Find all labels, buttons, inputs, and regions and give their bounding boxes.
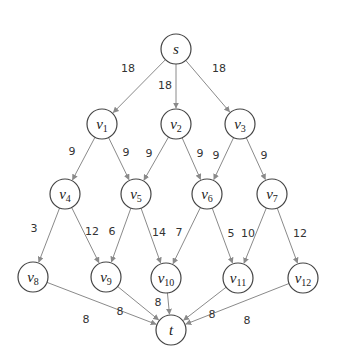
edge-weight-v4-v9: 12 xyxy=(85,225,99,238)
node-v5: v5 xyxy=(121,179,151,209)
edge-weight-v6-v11: 5 xyxy=(228,227,235,240)
edge-weight-v4-v8: 3 xyxy=(31,222,38,235)
edge-weight-v5-v10: 14 xyxy=(152,226,166,239)
edge-weight-v3-v6: 9 xyxy=(213,149,220,162)
flow-network-diagram: 18181899999931261475101288888 sv1v2v3v4v… xyxy=(0,0,339,358)
edge-v9-t xyxy=(118,286,159,319)
edge-v10-t xyxy=(167,293,169,314)
edge-weight-v2-v6: 9 xyxy=(197,147,204,160)
edge-v11-t xyxy=(184,287,227,320)
edge-weight-v2-v5: 9 xyxy=(146,147,153,160)
edge-v4-v8 xyxy=(39,208,60,262)
arrow-icon xyxy=(118,286,159,319)
node-v10: v10 xyxy=(151,263,181,293)
node-v3: v3 xyxy=(225,109,255,139)
arrow-icon xyxy=(72,137,95,180)
edge-weight-v7-v11: 10 xyxy=(241,227,255,240)
edge-weight-v1-v5: 9 xyxy=(123,146,130,159)
edge-weight-v5-v9: 6 xyxy=(109,225,116,238)
edge-weight-v12-t: 8 xyxy=(244,314,251,327)
arrow-icon xyxy=(167,293,169,314)
node-v1: v1 xyxy=(87,109,117,139)
edge-weight-v11-t: 8 xyxy=(209,308,216,321)
node-t: t xyxy=(156,315,186,345)
edge-weight-v9-t: 8 xyxy=(117,305,124,318)
arrow-icon xyxy=(39,208,60,262)
node-v8: v8 xyxy=(18,262,48,292)
edge-v1-v4 xyxy=(72,137,95,180)
node-v7: v7 xyxy=(257,179,287,209)
edge-weight-v10-t: 8 xyxy=(155,296,162,309)
node-v6: v6 xyxy=(192,179,222,209)
edge-weight-v1-v4: 9 xyxy=(69,145,76,158)
edge-weight-v6-v10: 7 xyxy=(176,226,183,239)
edge-weight-v7-v12: 12 xyxy=(293,227,307,240)
edge-weight-v8-t: 8 xyxy=(83,313,90,326)
edge-weight-s-v1: 18 xyxy=(121,62,135,75)
edge-weight-s-v2: 18 xyxy=(158,79,172,92)
node-v12: v12 xyxy=(288,263,318,293)
node-v4: v4 xyxy=(50,179,80,209)
node-v9: v9 xyxy=(91,262,121,292)
node-label: s xyxy=(173,41,179,57)
edge-weight-s-v3: 18 xyxy=(212,62,226,75)
edge-weight-v3-v7: 9 xyxy=(261,149,268,162)
node-v11: v11 xyxy=(223,263,253,293)
node-v2: v2 xyxy=(161,109,191,139)
node-s: s xyxy=(161,34,191,64)
arrow-icon xyxy=(184,287,227,320)
